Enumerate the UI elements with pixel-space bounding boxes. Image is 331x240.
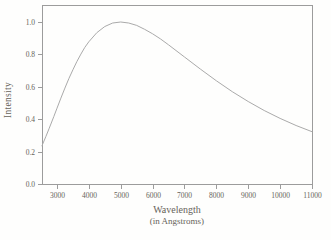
x-tick-label: 9000 <box>241 191 256 200</box>
x-tick-label: 4000 <box>82 191 97 200</box>
y-axis-title: Intensity <box>3 60 15 140</box>
y-tick-label: 0.8 <box>26 50 36 59</box>
y-tick-label: 0.6 <box>26 83 36 92</box>
y-tick-label: 0.4 <box>26 115 36 124</box>
x-tick-label: 8000 <box>209 191 224 200</box>
intensity-curve <box>42 22 312 146</box>
x-tick-label: 11000 <box>303 191 322 200</box>
x-axis-subtitle: (in Angstroms) <box>117 216 237 226</box>
x-tick-label: 10000 <box>271 191 290 200</box>
x-tick-label: 3000 <box>50 191 65 200</box>
y-tick-label: 0.2 <box>26 148 36 157</box>
x-tick-label: 7000 <box>177 191 192 200</box>
plot-frame <box>43 6 313 185</box>
x-axis-title: Wavelength <box>117 204 237 215</box>
y-tick-label: 1.0 <box>26 18 36 27</box>
blackbody-intensity-figure: 300040005000600070008000900010000110000.… <box>0 0 331 240</box>
x-tick-label: 5000 <box>114 191 129 200</box>
x-tick-label: 6000 <box>146 191 161 200</box>
y-tick-label: 0.0 <box>26 180 36 189</box>
